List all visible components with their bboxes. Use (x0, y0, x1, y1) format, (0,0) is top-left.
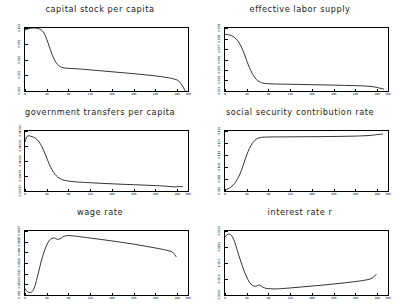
panel-interest-rate-r: interest rate r 040801201602002402803000… (200, 203, 400, 308)
y-tick-mark (25, 295, 28, 296)
y-tick-label: 0.0650 (14, 278, 24, 290)
x-tick-label: 300 (385, 192, 390, 196)
x-tick-label: 200 (331, 92, 336, 96)
x-tick-label: 280 (374, 296, 379, 300)
plot-area: 040801201602002402803000.007170.009740.0… (24, 130, 189, 192)
x-tick-label: 160 (109, 92, 114, 96)
y-tick-label: 0.130 (214, 125, 224, 137)
y-tick-label: 0.0000 (214, 289, 224, 301)
y-tick-label: 0.0200 (214, 225, 224, 237)
x-tick-label: 0 (224, 296, 226, 300)
x-tick-label: 40 (45, 92, 49, 96)
panel-effective-labor-supply: effective labor supply 04080120160200240… (200, 0, 400, 103)
x-tick-label: 40 (245, 296, 249, 300)
y-tick-label: 0.050 (14, 54, 24, 66)
y-tick-label: 0.576 (214, 54, 224, 66)
y-tick-label: 0.579 (214, 22, 224, 34)
x-tick-label: 0 (24, 192, 26, 196)
panel-government-transfers-per-capita: government transfers per capita 04080120… (0, 103, 200, 203)
panel-capital-stock-per-capita: capital stock per capita 040801201602002… (0, 0, 200, 103)
x-tick-label: 280 (174, 92, 179, 96)
y-tick-label: 0.075 (14, 38, 24, 50)
y-tick-label: 0.0907 (14, 225, 24, 237)
x-tick-label: 240 (153, 296, 158, 300)
panel-wage-rate: wage rate 040801201602002402803000.0490.… (0, 203, 200, 308)
figure-grid: capital stock per capita 040801201602002… (0, 0, 400, 308)
x-tick-label: 240 (353, 296, 358, 300)
panel-title: effective labor supply (200, 4, 400, 14)
x-tick-label: 300 (185, 92, 190, 96)
x-tick-mark (388, 293, 389, 296)
x-tick-label: 80 (67, 192, 71, 196)
line-curve (25, 231, 188, 295)
plot-area: 040801201602002402803000.0900.0980.1060.… (224, 130, 389, 192)
x-tick-label: 240 (353, 192, 358, 196)
plot-area: 040801201602002402803000.5730.5740.5750.… (224, 27, 389, 92)
x-tick-label: 120 (87, 296, 92, 300)
x-tick-label: 300 (185, 192, 190, 196)
y-tick-mark (225, 295, 228, 296)
x-tick-label: 40 (245, 192, 249, 196)
y-tick-label: 0.01000 (14, 155, 24, 167)
y-tick-mark (225, 91, 228, 92)
y-tick-label: 0.00974 (14, 170, 24, 182)
x-tick-label: 240 (353, 92, 358, 96)
x-tick-label: 300 (185, 296, 190, 300)
x-tick-label: 40 (45, 296, 49, 300)
panel-title: interest rate r (200, 207, 400, 217)
x-tick-label: 160 (309, 192, 314, 196)
x-tick-label: 80 (67, 92, 71, 96)
x-tick-label: 40 (245, 92, 249, 96)
y-tick-label: 0.049 (14, 289, 24, 301)
x-tick-label: 80 (267, 92, 271, 96)
x-tick-label: 200 (131, 296, 136, 300)
x-tick-label: 80 (67, 296, 71, 300)
x-tick-label: 160 (109, 192, 114, 196)
plot-area: 040801201602002402803000.0000.0250.0500.… (24, 27, 189, 92)
y-tick-label: 0.114 (214, 149, 224, 161)
panel-title: capital stock per capita (0, 4, 200, 14)
x-tick-label: 120 (287, 92, 292, 96)
y-tick-mark (25, 91, 28, 92)
x-tick-label: 240 (153, 192, 158, 196)
x-tick-label: 120 (87, 192, 92, 196)
x-tick-label: 280 (174, 296, 179, 300)
y-tick-mark (25, 191, 28, 192)
y-tick-label: 0.0150 (214, 241, 224, 253)
y-tick-label: 0.578 (214, 33, 224, 45)
y-tick-label: 5.0E-3 (214, 273, 224, 285)
x-tick-label: 240 (153, 92, 158, 96)
x-tick-label: 120 (87, 92, 92, 96)
y-tick-label: 0.086 (14, 246, 24, 258)
y-tick-label: 1.0E-2 (214, 257, 224, 269)
x-tick-mark (188, 89, 189, 92)
x-tick-label: 0 (224, 92, 226, 96)
panel-title: government transfers per capita (0, 107, 200, 117)
x-tick-label: 200 (131, 92, 136, 96)
x-tick-label: 160 (109, 296, 114, 300)
y-tick-label: 0.01050 (14, 125, 24, 137)
y-tick-label: 0.106 (214, 161, 224, 173)
y-tick-label: 0.0742 (14, 268, 24, 280)
line-curve (25, 28, 188, 91)
y-tick-label: 0.098 (214, 173, 224, 185)
x-tick-label: 0 (224, 192, 226, 196)
x-tick-label: 160 (309, 92, 314, 96)
y-tick-label: 0.575 (214, 64, 224, 76)
x-tick-mark (188, 293, 189, 296)
plot-area: 040801201602002402803000.00005.0E-31.0E-… (224, 230, 389, 296)
x-tick-label: 280 (374, 92, 379, 96)
line-curve (225, 231, 388, 295)
x-tick-label: 40 (45, 192, 49, 196)
y-tick-label: 0.01024 (14, 140, 24, 152)
y-tick-label: 0.574 (214, 74, 224, 86)
x-tick-label: 200 (331, 192, 336, 196)
x-tick-label: 280 (374, 192, 379, 196)
x-tick-label: 200 (331, 296, 336, 300)
line-curve (25, 131, 188, 191)
x-tick-label: 280 (174, 192, 179, 196)
x-tick-label: 80 (267, 296, 271, 300)
x-tick-label: 120 (287, 296, 292, 300)
x-tick-mark (188, 189, 189, 192)
line-curve (225, 28, 388, 91)
